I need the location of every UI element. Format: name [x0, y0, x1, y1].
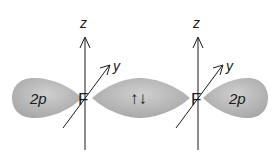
left-2p-lobe — [12, 78, 82, 118]
f2-sigma-bond-diagram: z y F 2p z y F 2p ↑↓ — [0, 0, 276, 153]
left-z-axis-label: z — [79, 15, 87, 31]
electron-pair-arrows: ↑↓ — [130, 89, 147, 108]
right-z-axis-label: z — [192, 15, 200, 31]
right-2p-label: 2p — [228, 90, 246, 107]
left-y-axis-label: y — [112, 58, 121, 74]
left-2p-label: 2p — [29, 90, 47, 107]
right-f-atom-label: F — [191, 90, 201, 109]
right-y-axis-label: y — [225, 58, 234, 74]
diagram-canvas: z y F 2p z y F 2p ↑↓ — [0, 0, 276, 153]
left-f-atom-label: F — [78, 90, 88, 109]
